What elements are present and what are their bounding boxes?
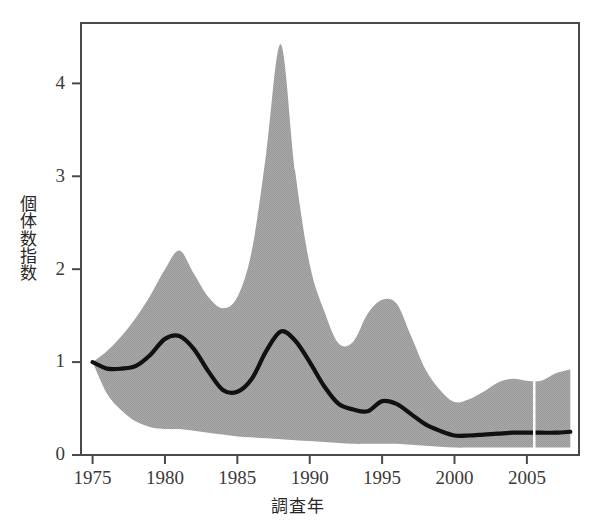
x-axis-tick-labels: 1975198019851990199520002005 xyxy=(74,467,546,488)
scan-artifact xyxy=(533,355,536,455)
x-axis-ticks xyxy=(93,455,527,464)
x-tick-label: 1985 xyxy=(218,467,256,488)
y-axis-title-char: 数 xyxy=(20,265,37,282)
y-axis-title: 個体数指数 xyxy=(14,196,42,283)
y-axis-tick-labels: 01234 xyxy=(56,72,66,465)
x-axis-title: 調査年 xyxy=(0,492,596,517)
y-tick-label: 1 xyxy=(56,350,66,371)
y-tick-label: 2 xyxy=(56,258,66,279)
x-tick-label: 1995 xyxy=(363,467,401,488)
population-index-chart: 01234 1975198019851990199520002005 個体数指数… xyxy=(0,0,596,528)
chart-plot-area: 01234 1975198019851990199520002005 xyxy=(0,0,596,528)
x-tick-label: 1990 xyxy=(291,467,329,488)
y-tick-label: 3 xyxy=(56,165,66,186)
y-tick-label: 0 xyxy=(56,443,66,464)
y-axis-ticks xyxy=(72,83,81,455)
y-tick-label: 4 xyxy=(56,72,66,93)
x-tick-label: 1980 xyxy=(146,467,184,488)
x-tick-label: 2005 xyxy=(508,467,546,488)
x-tick-label: 2000 xyxy=(436,467,474,488)
x-tick-label: 1975 xyxy=(74,467,112,488)
